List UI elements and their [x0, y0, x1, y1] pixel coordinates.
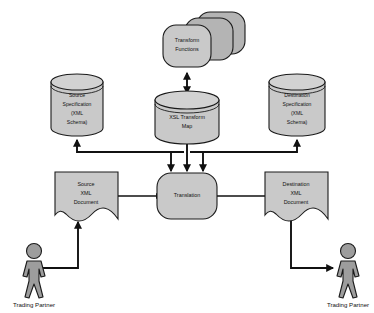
node-destination-document[interactable]: Destination XML Document [265, 172, 328, 221]
actor-left[interactable]: Trading Partner [13, 244, 55, 308]
translation-label: Translation [174, 192, 200, 198]
actor-left-label: Trading Partner [13, 301, 55, 308]
destination-document-label-line3: Document [284, 199, 309, 205]
transform-functions-label-line1: Transform [175, 37, 200, 43]
source-specification-label-line3: (XML [71, 110, 83, 116]
source-specification-label-line1: Source [69, 92, 85, 98]
destination-specification-label-line3: (XML [291, 110, 303, 116]
diagram-canvas: Transform Functions XSL Transform Map So… [0, 0, 374, 313]
actor-right[interactable]: Trading Partner [327, 244, 369, 308]
connector-actor-left-to-source-document [40, 222, 78, 268]
node-source-document[interactable]: Source XML Document [55, 172, 118, 221]
node-transform-functions[interactable]: Transform Functions [163, 12, 245, 67]
destination-document-label-line2: XML [290, 190, 301, 196]
source-document-label-line2: XML [80, 190, 91, 196]
actor-right-label: Trading Partner [327, 301, 369, 308]
node-xsl-transform-map[interactable]: XSL Transform Map [155, 91, 219, 144]
destination-document-label-line1: Destination [283, 181, 310, 187]
node-translation[interactable]: Translation [157, 173, 217, 219]
source-specification-label-line4: Schema) [67, 119, 88, 125]
transform-functions-label-line2: Functions [175, 46, 199, 52]
connector-destination-document-to-actor-right [291, 218, 333, 268]
destination-specification-label-line4: Schema) [287, 119, 308, 125]
source-document-label-line1: Source [77, 181, 94, 187]
source-document-label-line3: Document [74, 199, 99, 205]
xsl-transform-map-label-line2: Map [182, 123, 193, 129]
source-specification-label-line2: Specification [63, 101, 92, 107]
translation-flow-diagram: Transform Functions XSL Transform Map So… [0, 0, 374, 313]
node-source-specification[interactable]: Source Specification (XML Schema) [51, 74, 103, 136]
node-destination-specification[interactable]: Destination Specification (XML Schema) [269, 74, 325, 136]
xsl-transform-map-label-line1: XSL Transform [169, 114, 205, 120]
destination-specification-label-line2: Specification [283, 101, 312, 107]
destination-specification-label-line1: Destination [284, 92, 310, 98]
